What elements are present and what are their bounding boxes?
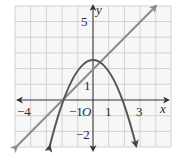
x-axis-label: x [159,101,166,116]
tick-label-x3: 3 [136,104,143,119]
tick-label-x1: 1 [105,104,112,119]
tick-label-x-neg1: −1 [69,104,83,119]
origin-label: O [82,104,92,119]
tick-label-y1: 1 [84,78,91,93]
tick-label-y-neg2: −2 [76,127,90,142]
y-axis-label: y [94,2,102,17]
coordinate-plane: y x 5 1 −2 −4 −1 O 1 3 [0,0,181,155]
tick-label-x-neg4: −4 [17,104,31,119]
tick-label-y5: 5 [81,14,88,29]
